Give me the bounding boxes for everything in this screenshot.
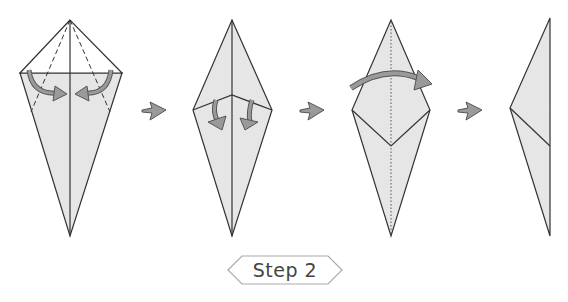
next-step-arrow-icon xyxy=(458,102,482,120)
next-step-arrow-icon xyxy=(142,102,166,120)
figure-3-fold-in-half xyxy=(351,20,432,236)
figure-2-diamond xyxy=(193,20,272,236)
step-label: Step 2 xyxy=(228,254,342,286)
figure-1-kite-base xyxy=(20,20,122,236)
next-step-arrow-icon xyxy=(300,102,324,120)
figure-4-folded-half xyxy=(510,18,550,236)
